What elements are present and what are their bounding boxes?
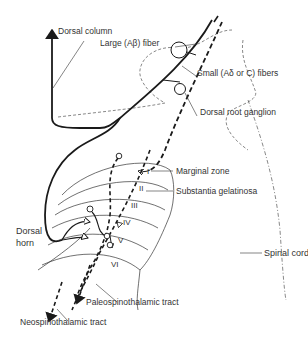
diagram-graphic <box>0 0 308 340</box>
lamina-VI: VI <box>111 260 119 269</box>
label-dorsal-horn-2: horn <box>16 238 34 248</box>
label-dorsal-horn-1: Dorsal <box>16 226 42 236</box>
lamina-IV: IV <box>123 218 131 227</box>
small-drg-cell <box>175 84 186 95</box>
label-spinal-cord: Spinal cord <box>264 248 308 258</box>
label-neospinothalamic-tract: Neospinothalamic tract <box>20 317 106 327</box>
label-paleospinothalamic-tract: Paleospinothalamic tract <box>86 297 179 307</box>
large-fiber <box>52 20 212 128</box>
label-marginal-zone: Marginal zone <box>176 166 229 176</box>
spinal-cord-outline <box>248 100 286 300</box>
label-substantia-gelatinosa: Substantia gelatinosa <box>176 186 257 196</box>
large-drg-cell <box>171 42 187 58</box>
lamina-II: II <box>139 184 143 193</box>
dorsal-horn-diagram: Dorsal column Large (Aβ) fiber Small (Aδ… <box>0 0 308 340</box>
small-fiber <box>150 22 222 170</box>
paleospinothalamic-arrow <box>78 265 90 300</box>
label-dorsal-column: Dorsal column <box>58 26 112 36</box>
lamina-III: III <box>131 201 138 210</box>
label-large-fiber: Large (Aβ) fiber <box>100 38 159 48</box>
root-sheath-right <box>226 40 256 150</box>
label-small-fibers: Small (Aδ or C) fibers <box>197 68 278 78</box>
lamina-I: I <box>147 167 149 176</box>
lamina-V: V <box>118 236 123 245</box>
label-dorsal-root-ganglion: Dorsal root ganglion <box>200 107 276 117</box>
